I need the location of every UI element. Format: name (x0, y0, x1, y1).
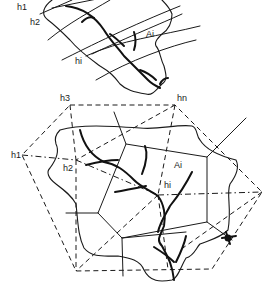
bottom-label-Ai: Ai (174, 160, 182, 170)
bottom-label-h3: h3 (60, 93, 70, 103)
polygon-edge-4 (207, 118, 246, 157)
bottom-label-hn: hn (177, 93, 187, 103)
top-label-hi: hi (75, 56, 82, 66)
polygon-edge-2 (98, 144, 207, 238)
top-panel: h1 h2 hi Ai (17, 0, 200, 94)
outlet-marker (225, 235, 232, 242)
top-label-h1: h1 (17, 2, 27, 12)
bottom-label-h2: h2 (63, 163, 73, 173)
top-river-branch-5 (160, 78, 168, 84)
catchment-diagram: h1 h2 hi Ai (0, 0, 271, 291)
bottom-label-hi: hi (164, 180, 171, 190)
dashed-h3-h2 (70, 105, 76, 160)
bottom-river-branch-3 (142, 146, 146, 174)
bottom-label-h1: h1 (11, 150, 21, 160)
polygon-edge-6 (122, 232, 186, 238)
bottom-river-branch-6 (176, 236, 186, 262)
dashdot-hi-right (158, 192, 262, 195)
bottom-panel: h3 hn h1 h2 hi Ai (11, 93, 262, 281)
top-label-h2: h2 (30, 17, 40, 27)
dashed-right-diag (180, 192, 262, 250)
dashdot-h1-h2 (22, 155, 76, 160)
top-river-branch-1 (82, 17, 94, 22)
top-river-branch-3 (134, 32, 136, 50)
top-label-Ai: Ai (146, 29, 154, 39)
bottom-river-branch-2 (115, 186, 146, 192)
